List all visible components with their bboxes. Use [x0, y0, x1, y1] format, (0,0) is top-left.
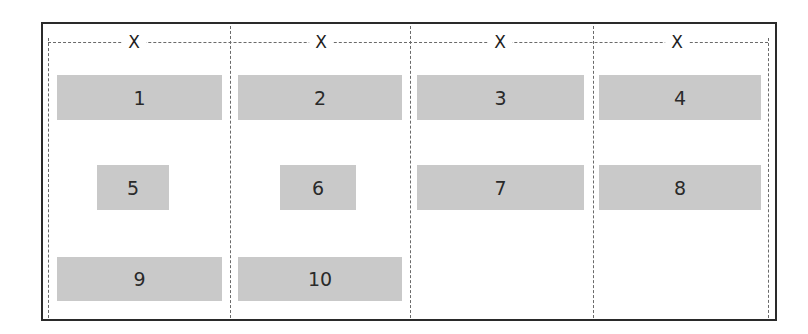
column-label-2: X [309, 31, 333, 53]
grid-line-col-4 [593, 26, 594, 318]
grid-item-8: 8 [599, 165, 761, 210]
grid-item-5: 5 [97, 165, 169, 210]
grid-item-9: 9 [57, 257, 222, 301]
grid-item-3: 3 [417, 75, 584, 120]
column-label-4: X [665, 31, 689, 53]
grid-line-col-2 [230, 26, 231, 318]
grid-item-6: 6 [280, 165, 356, 210]
grid-item-10: 10 [238, 257, 402, 301]
grid-line-right [768, 38, 769, 318]
grid-line-col-3 [410, 26, 411, 318]
column-track-line [48, 42, 768, 43]
grid-line-left [48, 38, 49, 318]
column-label-3: X [488, 31, 512, 53]
grid-item-2: 2 [238, 75, 402, 120]
grid-item-7: 7 [417, 165, 584, 210]
grid-item-1: 1 [57, 75, 222, 120]
column-label-1: X [122, 31, 146, 53]
grid-item-4: 4 [599, 75, 761, 120]
